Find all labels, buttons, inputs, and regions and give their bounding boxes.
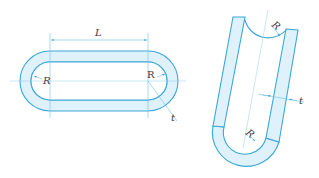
radius-right-label: R xyxy=(147,69,155,80)
tilted-centerline xyxy=(243,10,268,148)
u-bend-figure: R t R xyxy=(212,10,304,166)
radius-top-label: R xyxy=(269,18,283,32)
thickness-label-right: t xyxy=(299,95,304,106)
diagram-canvas: L R R t R t R xyxy=(0,0,319,178)
thickness-arrow-right xyxy=(289,99,297,101)
radius-left-label: R xyxy=(42,75,51,86)
u-left-arm xyxy=(213,17,245,127)
u-right-arm xyxy=(266,29,298,142)
thickness-arrow-left xyxy=(262,95,271,96)
radius-bottom-label: R xyxy=(243,126,257,140)
obround-figure: L R R t xyxy=(10,27,186,123)
length-label: L xyxy=(94,27,102,38)
thickness-label: t xyxy=(171,112,176,123)
